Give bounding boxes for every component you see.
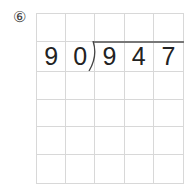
dividend-digit: 4 — [125, 42, 154, 72]
grid-cell[interactable] — [66, 127, 95, 155]
division-bracket-icon — [88, 41, 96, 71]
division-grid: 9 0 9 4 7 — [36, 13, 184, 184]
grid-cell[interactable] — [154, 14, 183, 42]
grid-cell[interactable] — [37, 72, 66, 100]
grid-cell[interactable] — [95, 72, 124, 100]
grid-cell[interactable] — [125, 100, 154, 128]
grid-cell[interactable] — [37, 100, 66, 128]
grid-cell[interactable] — [37, 127, 66, 155]
grid-cell[interactable] — [95, 127, 124, 155]
grid-cell[interactable] — [125, 155, 154, 183]
divisor-digit: 9 — [37, 42, 66, 72]
grid-cell[interactable] — [154, 155, 183, 183]
grid-cell[interactable] — [66, 155, 95, 183]
grid-cell[interactable] — [95, 100, 124, 128]
grid-cell[interactable] — [154, 127, 183, 155]
dividend-digit: 9 — [95, 42, 124, 72]
grid-cell[interactable] — [95, 155, 124, 183]
grid-cell[interactable] — [125, 72, 154, 100]
grid-cell[interactable] — [66, 100, 95, 128]
grid-cell[interactable] — [37, 14, 66, 42]
grid-cell[interactable] — [154, 100, 183, 128]
problem-number-label: ⑥ — [12, 10, 26, 24]
grid-cell[interactable] — [66, 14, 95, 42]
grid-cell[interactable] — [125, 127, 154, 155]
grid-cell[interactable] — [37, 155, 66, 183]
division-bar-line — [93, 41, 184, 43]
grid-cell[interactable] — [66, 72, 95, 100]
grid-cell[interactable] — [125, 14, 154, 42]
grid-cell[interactable] — [154, 72, 183, 100]
dividend-digit: 7 — [154, 42, 183, 72]
grid-cell[interactable] — [95, 14, 124, 42]
